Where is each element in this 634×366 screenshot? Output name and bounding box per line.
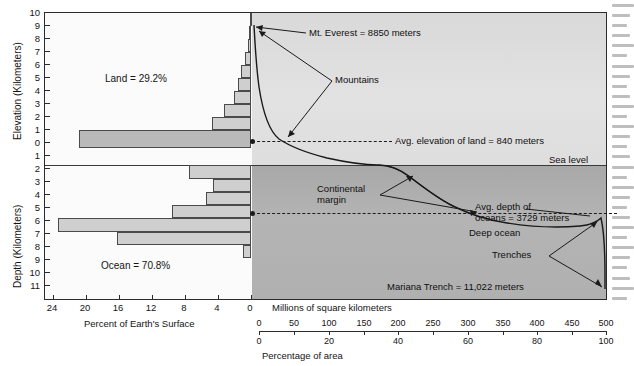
depth-label-6: 6 xyxy=(18,215,40,226)
percentage-label-0: 0 xyxy=(249,336,269,346)
annotation-trenches: Trenches xyxy=(492,249,531,260)
percentage-label-80: 80 xyxy=(525,336,549,346)
annotation-avg-land-elevation: Avg. elevation of land = 840 meters xyxy=(395,135,544,146)
area-scale-tick xyxy=(572,331,573,335)
percentage-label-100: 100 xyxy=(594,336,618,346)
area-scale-tick xyxy=(503,331,504,335)
ocean-percentage-note: Ocean = 70.8% xyxy=(101,260,170,271)
area-scale-tick xyxy=(537,331,538,335)
area-label-400: 400 xyxy=(525,318,549,328)
plot-area: Mt. Everest = 8850 meters Mountains Avg.… xyxy=(44,12,607,300)
elev-label-1: 1 xyxy=(18,124,40,135)
annotation-deep-ocean: Deep ocean xyxy=(469,227,520,238)
area-label-50: 50 xyxy=(284,318,304,328)
percent-label-0: 0 xyxy=(238,302,262,313)
elev-label-8: 8 xyxy=(18,33,40,44)
percent-label-24: 24 xyxy=(40,302,64,313)
continental-margin-line2: margin xyxy=(317,194,346,205)
area-axis-caption: Millions of square kilometers xyxy=(272,302,392,313)
trenches-arrowhead-lower xyxy=(595,279,602,287)
continental-margin-bump xyxy=(378,165,453,206)
adjacent-page-text xyxy=(612,4,634,300)
area-scale-tick xyxy=(433,331,434,335)
percentage-label-60: 60 xyxy=(456,336,480,346)
percent-label-16: 16 xyxy=(106,302,130,313)
area-label-500: 500 xyxy=(594,318,618,328)
elev-label-5: 5 xyxy=(18,72,40,83)
annotation-mariana-trench: Mariana Trench = 11,022 meters xyxy=(387,281,524,292)
area-label-0: 0 xyxy=(249,318,269,328)
percent-axis-tick xyxy=(251,295,252,300)
percentage-label-20: 20 xyxy=(317,336,341,346)
percentage-axis-caption: Percentage of area xyxy=(262,350,343,361)
percent-label-8: 8 xyxy=(172,302,196,313)
mountains-leader-line-lower xyxy=(288,81,332,137)
area-label-250: 250 xyxy=(421,318,445,328)
elev-label-0: 0 xyxy=(18,137,40,148)
elev-label-9: 9 xyxy=(18,20,40,31)
trenches-arrowhead-upper xyxy=(590,222,597,228)
mountains-leader-line-upper xyxy=(259,31,332,81)
land-percentage-note: Land = 29.2% xyxy=(105,73,167,84)
area-label-100: 100 xyxy=(317,318,341,328)
depth-label-4: 4 xyxy=(18,189,40,200)
annotation-mountains: Mountains xyxy=(335,74,379,85)
percent-axis-tick xyxy=(152,295,153,300)
elev-label-10: 10 xyxy=(18,7,40,18)
depth-label-11: 11 xyxy=(16,280,40,291)
annotation-sea-level: Sea level xyxy=(549,154,588,165)
percent-axis-tick xyxy=(218,295,219,300)
area-label-200: 200 xyxy=(386,318,410,328)
everest-arrowhead xyxy=(256,25,263,31)
area-scale-tick xyxy=(329,331,330,335)
annotation-avg-ocean-depth: Avg. depth of oceans = 3729 meters xyxy=(475,201,569,223)
depth-label-1: 1 xyxy=(18,150,40,161)
depth-label-10: 10 xyxy=(16,267,40,278)
area-label-450: 450 xyxy=(560,318,584,328)
depth-label-5: 5 xyxy=(18,202,40,213)
depth-label-7: 7 xyxy=(18,228,40,239)
avg-depth-line2: oceans = 3729 meters xyxy=(475,212,569,223)
elev-label-6: 6 xyxy=(18,59,40,70)
elev-label-3: 3 xyxy=(18,98,40,109)
elev-label-7: 7 xyxy=(18,46,40,57)
depth-label-3: 3 xyxy=(18,176,40,187)
area-scale-tick xyxy=(294,331,295,335)
percent-label-12: 12 xyxy=(139,302,163,313)
trenches-leader-lower xyxy=(549,256,602,287)
percent-axis-tick xyxy=(86,295,87,300)
annotation-everest: Mt. Everest = 8850 meters xyxy=(309,27,421,38)
avg-depth-line1: Avg. depth of xyxy=(475,201,531,212)
continental-margin-leader-lower xyxy=(380,195,477,212)
percent-axis-tick xyxy=(119,295,120,300)
percent-label-4: 4 xyxy=(205,302,229,313)
area-scale-tick xyxy=(259,331,260,335)
continental-margin-line1: Continental xyxy=(317,183,365,194)
elev-label-4: 4 xyxy=(18,85,40,96)
depth-label-8: 8 xyxy=(18,241,40,252)
area-label-350: 350 xyxy=(491,318,515,328)
percentage-label-40: 40 xyxy=(386,336,410,346)
elev-label-2: 2 xyxy=(18,111,40,122)
area-label-300: 300 xyxy=(456,318,480,328)
hypsometric-curve-figure: Elevation (Kilometers) Depth (Kilometers… xyxy=(0,0,634,366)
depth-label-9: 9 xyxy=(18,254,40,265)
area-scale-tick xyxy=(468,331,469,335)
percent-axis-tick xyxy=(53,295,54,300)
percent-label-20: 20 xyxy=(73,302,97,313)
percent-axis-tick xyxy=(185,295,186,300)
annotation-continental-margin: Continental margin xyxy=(317,183,365,205)
mountains-arrowhead-lower xyxy=(288,130,295,137)
depth-label-2: 2 xyxy=(18,163,40,174)
area-scale-tick xyxy=(398,331,399,335)
area-label-150: 150 xyxy=(352,318,376,328)
area-scale-tick xyxy=(364,331,365,335)
area-scale-tick xyxy=(606,331,607,335)
mountains-arrowhead-upper xyxy=(259,31,266,37)
percent-axis-title: Percent of Earth's Surface xyxy=(84,318,195,329)
